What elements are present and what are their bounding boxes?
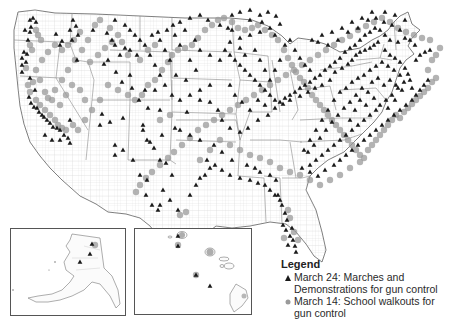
legend-title: Legend	[281, 258, 451, 270]
walkout-marker	[63, 92, 69, 98]
walkout-marker	[203, 122, 209, 128]
walkout-marker	[115, 87, 121, 93]
march-marker	[406, 71, 411, 75]
walkout-marker	[317, 102, 323, 108]
march-marker	[408, 77, 413, 81]
walkout-marker	[119, 39, 125, 45]
walkout-marker	[369, 142, 375, 148]
walkout-marker	[37, 77, 43, 83]
walkout-marker	[281, 47, 287, 53]
march-marker	[374, 15, 379, 19]
march-marker	[418, 52, 423, 56]
march-marker	[288, 37, 293, 41]
walkout-marker	[411, 32, 417, 38]
walkout-marker	[42, 89, 48, 95]
march-marker	[386, 105, 391, 109]
walkout-marker	[397, 115, 403, 121]
march-marker	[368, 132, 373, 136]
walkout-marker	[437, 45, 443, 51]
walkout-marker	[82, 97, 88, 103]
walkout-marker	[189, 42, 195, 48]
walkout-marker	[209, 22, 215, 28]
march-marker	[400, 87, 405, 91]
march-marker	[284, 227, 289, 231]
walkout-marker	[59, 47, 65, 53]
march-marker	[356, 142, 361, 146]
walkout-marker	[75, 127, 81, 133]
walkout-marker	[33, 67, 39, 73]
walkout-marker	[235, 25, 241, 31]
walkout-marker	[197, 157, 203, 163]
contiguous-us	[14, 10, 420, 262]
march-marker	[374, 127, 379, 131]
march-marker	[428, 47, 433, 51]
march-marker	[373, 25, 378, 29]
walkout-marker	[132, 97, 138, 103]
march-marker	[358, 37, 363, 41]
walkout-marker	[229, 19, 235, 25]
walkout-marker	[251, 92, 257, 98]
walkout-marker	[102, 45, 108, 51]
walkout-marker	[281, 235, 287, 241]
legend-label-marches-line2: Demonstrations for gun control	[294, 283, 451, 295]
march-marker	[340, 25, 345, 29]
walkout-marker	[145, 47, 151, 53]
march-marker	[403, 65, 408, 69]
walkout-marker	[107, 25, 113, 31]
walkout-marker	[157, 162, 163, 168]
walkout-marker	[315, 52, 321, 58]
walkout-marker	[202, 27, 208, 33]
legend-item-marches: March 24: Marches and Demonstrations for…	[281, 271, 451, 295]
walkout-marker	[177, 212, 183, 218]
walkout-marker	[237, 147, 243, 153]
walkout-marker	[262, 27, 268, 33]
walkout-marker	[277, 165, 283, 171]
walkout-marker	[403, 29, 409, 35]
walkout-marker	[219, 112, 225, 118]
walkout-marker	[59, 77, 65, 83]
walkout-marker	[257, 155, 263, 161]
walkout-marker	[345, 137, 351, 143]
walkout-marker	[69, 82, 75, 88]
march-marker	[418, 87, 423, 91]
walkout-marker	[365, 147, 371, 153]
walkout-marker	[42, 107, 48, 113]
walkout-marker	[97, 17, 103, 23]
walkout-marker	[331, 42, 337, 48]
walkout-marker	[179, 142, 185, 148]
walkout-marker	[291, 67, 297, 73]
legend-item-walkouts: March 14: School walkouts for gun contro…	[281, 295, 451, 319]
march-marker	[293, 243, 298, 247]
march-marker	[338, 157, 343, 161]
protest-map: Legend March 24: Marches and Demonstrati…	[0, 0, 451, 329]
walkout-marker	[327, 177, 333, 183]
march-marker	[368, 29, 373, 33]
walkout-marker	[419, 35, 425, 41]
walkout-marker	[243, 97, 249, 103]
walkout-marker	[425, 67, 431, 73]
walkout-marker	[275, 37, 281, 43]
walkout-marker	[287, 169, 293, 175]
walkout-marker	[45, 49, 51, 55]
walkout-marker	[363, 23, 369, 29]
walkout-marker	[39, 57, 45, 63]
march-marker	[404, 102, 409, 106]
march-marker	[323, 167, 328, 171]
walkout-marker	[63, 127, 69, 133]
walkout-marker	[337, 127, 343, 133]
walkout-marker	[373, 137, 379, 143]
march-marker	[363, 32, 368, 36]
walkout-marker	[65, 42, 71, 48]
walkout-marker	[321, 107, 327, 113]
walkout-marker	[283, 72, 289, 78]
march-marker	[346, 29, 351, 33]
walkout-marker	[313, 97, 319, 103]
walkout-marker	[137, 57, 143, 63]
walkout-marker	[349, 142, 355, 148]
walkout-marker	[353, 147, 359, 153]
walkout-marker	[157, 117, 163, 123]
march-marker	[332, 162, 337, 166]
march-marker	[398, 107, 403, 111]
walkout-marker	[79, 47, 85, 53]
march-marker	[274, 13, 279, 17]
